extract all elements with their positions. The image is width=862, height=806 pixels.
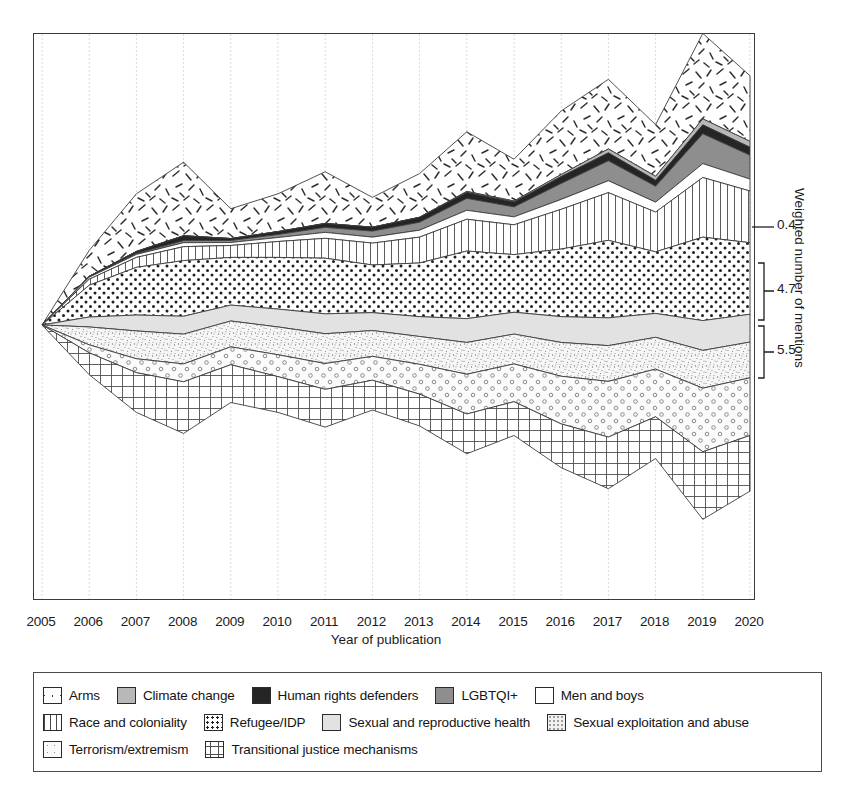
x-tick-label: 2010: [254, 614, 300, 629]
legend-item[interactable]: Race and coloniality: [43, 714, 187, 731]
legend-swatch-icon: [322, 714, 341, 731]
annotation-0-4: 0.4: [777, 217, 796, 232]
x-tick-label: 2009: [207, 614, 253, 629]
x-tick-label: 2016: [537, 614, 583, 629]
legend: ArmsClimate changeHuman rights defenders…: [33, 672, 822, 772]
legend-swatch-icon: [435, 687, 454, 704]
x-tick-label: 2005: [18, 614, 64, 629]
x-tick-label: 2015: [490, 614, 536, 629]
legend-swatch-icon: [204, 714, 223, 731]
x-tick-label: 2011: [301, 614, 347, 629]
legend-swatch-icon: [252, 687, 271, 704]
legend-swatch-icon: [535, 687, 554, 704]
legend-label: Sexual exploitation and abuse: [573, 715, 749, 730]
legend-item[interactable]: LGBTQI+: [435, 687, 517, 704]
plot-area: [33, 33, 755, 600]
x-tick-label: 2008: [160, 614, 206, 629]
legend-row: Terrorism/extremismTransitional justice …: [43, 736, 821, 763]
area-bands: [42, 33, 750, 519]
annotation-4-7: 4.7: [777, 281, 796, 296]
x-axis-title: Year of publication: [236, 632, 536, 647]
legend-label: Transitional justice mechanisms: [231, 742, 417, 757]
legend-item[interactable]: Climate change: [117, 687, 235, 704]
legend-label: Sexual and reproductive health: [348, 715, 530, 730]
x-tick-label: 2018: [632, 614, 678, 629]
legend-swatch-icon: [205, 741, 224, 758]
legend-item[interactable]: Arms: [43, 687, 100, 704]
legend-item[interactable]: Transitional justice mechanisms: [205, 741, 417, 758]
legend-row: ArmsClimate changeHuman rights defenders…: [43, 682, 821, 709]
legend-swatch-icon: [43, 687, 62, 704]
x-tick-label: 2007: [112, 614, 158, 629]
legend-swatch-icon: [43, 714, 62, 731]
legend-label: Refugee/IDP: [230, 715, 306, 730]
legend-label: Human rights defenders: [278, 688, 419, 703]
legend-item[interactable]: Terrorism/extremism: [43, 741, 188, 758]
legend-item[interactable]: Sexual and reproductive health: [322, 714, 530, 731]
x-tick-label: 2019: [679, 614, 725, 629]
legend-swatch-icon: [43, 741, 62, 758]
x-tick-label: 2013: [396, 614, 442, 629]
plot-svg: [34, 34, 754, 599]
x-tick-label: 2020: [726, 614, 772, 629]
legend-item[interactable]: Men and boys: [535, 687, 644, 704]
legend-label: Climate change: [143, 688, 235, 703]
x-tick-label: 2012: [348, 614, 394, 629]
legend-label: LGBTQI+: [461, 688, 517, 703]
stream-chart: 2005200620072008200920102011201220132014…: [0, 0, 862, 806]
annotation-5-5: 5.5: [777, 342, 796, 357]
legend-label: Arms: [69, 688, 100, 703]
x-tick-label: 2014: [443, 614, 489, 629]
legend-item[interactable]: Human rights defenders: [252, 687, 419, 704]
legend-swatch-icon: [547, 714, 566, 731]
legend-item[interactable]: Sexual exploitation and abuse: [547, 714, 749, 731]
legend-swatch-icon: [117, 687, 136, 704]
x-tick-label: 2006: [65, 614, 111, 629]
legend-label: Men and boys: [561, 688, 644, 703]
legend-label: Terrorism/extremism: [69, 742, 188, 757]
x-tick-label: 2017: [584, 614, 630, 629]
legend-row: Race and colonialityRefugee/IDPSexual an…: [43, 709, 821, 736]
legend-item[interactable]: Refugee/IDP: [204, 714, 306, 731]
legend-label: Race and coloniality: [69, 715, 187, 730]
